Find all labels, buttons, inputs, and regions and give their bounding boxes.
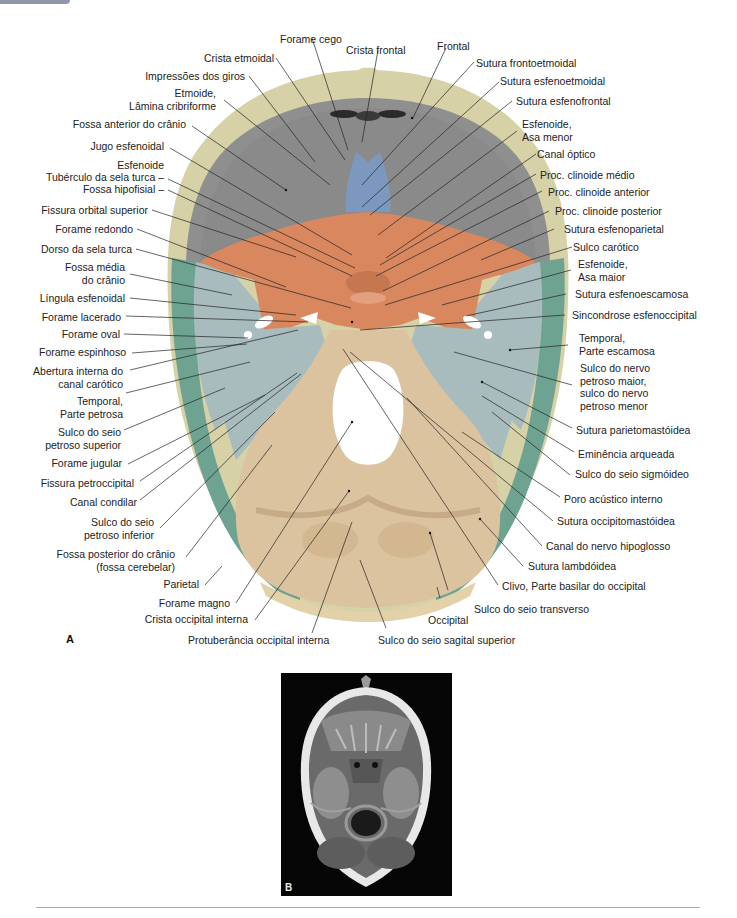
label-dorso-sela: Dorso da sela turca [20,243,132,256]
label-sutura-esfenoparietal: Sutura esfenoparietal [564,223,664,236]
label-sulco-transverso: Sulco do seio transverso [474,603,589,616]
label-fossa-hipofisial: Fossa hipofisial – [60,183,164,196]
label-crista-etmoidal: Crista etmoidal [198,52,274,65]
label-sulco-nervo-petroso: Sulco do nervo petroso maior, sulco do n… [580,362,650,412]
label-eminencia-arqueada: Eminência arqueada [578,448,674,461]
label-sutura-lambdoidea: Sutura lambdóidea [528,560,616,573]
figure-caption-cropped [36,912,700,918]
label-impressoes-dos-giros: Impressões dos giros [100,70,245,83]
mri-axial-skull [281,673,452,896]
label-sutura-esfenoescamosa: Sutura esfenoescamosa [575,288,688,301]
label-jugo-esfenoidal: Jugo esfenoidal [60,140,164,153]
label-clivo: Clivo, Parte basilar do occipital [502,580,646,593]
label-protuberancia-occipital: Protuberância occipital interna [188,634,329,647]
label-sincondrose-esfenoccipital: Sincondrose esfenoccipital [572,309,697,322]
label-clinoide-posterior: Proc. clinoide posterior [555,205,662,218]
label-forame-jugular: Forame jugular [30,457,122,470]
label-canal-condilar: Canal condilar [40,496,137,509]
label-forame-magno: Forame magno [130,597,230,610]
label-esfenoide-asa-menor: Esfenoide, Asa menor [522,118,573,143]
label-fissura-orbital-superior: Fissura orbital superior [20,204,148,217]
caption-divider-line [36,907,700,908]
label-sulco-sigmoideo: Sulco do seio sigmóideo [575,468,689,481]
label-sutura-occipitomastoidea: Sutura occipitomastóidea [557,515,675,528]
label-temporal-petrosa: Temporal, Parte petrosa [20,395,123,420]
label-forame-oval: Forame oval [40,328,120,341]
label-forame-redondo: Forame redondo [40,223,133,236]
label-crista-frontal: Crista frontal [346,44,406,57]
label-sutura-parietomastoidea: Sutura parietomastóidea [576,424,690,437]
label-abertura-canal-carotico: Abertura interna do canal carótico [20,365,123,390]
figure-b-mri-image: B [281,673,452,896]
label-frontal: Frontal [437,40,470,53]
label-clinoide-medio: Proc. clinoide médio [540,169,635,182]
label-forame-cego: Forame cego [280,33,342,46]
label-poro-acustico: Poro acústico interno [564,493,663,506]
label-etmoide-lamina: Etmoide, Lâmina cribriforme [100,87,216,112]
label-fossa-media: Fossa média do crânio [40,261,125,286]
label-fissura-petroccipital: Fissura petroccipital [20,477,134,490]
label-esfenoide-head: Esfenoide [60,159,164,172]
label-sulco-petroso-inferior: Sulco do seio petroso inferior [40,516,154,541]
label-temporal-escamosa: Temporal, Parte escamosa [579,332,655,357]
figure-a-skull-base: Forame cego Crista etmoidal Crista front… [0,0,737,640]
label-sulco-sagital-superior: Sulco do seio sagital superior [378,634,515,647]
label-sulco-carotico: Sulco carótico [573,241,639,254]
label-sutura-esfenoetmoidal: Sutura esfenoetmoidal [500,75,605,88]
label-crista-occipital-interna: Crista occipital interna [130,613,248,626]
label-occipital: Occipital [428,614,468,627]
label-sulco-petroso-superior: Sulco do seio petroso superior [20,426,121,451]
label-canal-hipoglosso: Canal do nervo hipoglosso [546,540,670,553]
label-fossa-anterior: Fossa anterior do crânio [40,118,186,131]
label-esfenoide-asa-maior: Esfenoide, Asa maior [578,258,628,283]
label-tuberculo-sela: Tubérculo da sela turca – [30,171,164,184]
label-sutura-frontoetmoidal: Sutura frontoetmoidal [476,57,576,70]
label-forame-espinhoso: Forame espinhoso [20,346,126,359]
label-sutura-esfenofrontal: Sutura esfenofrontal [516,95,611,108]
panel-letter-a: A [66,633,74,645]
label-forame-lacerado: Forame lacerado [30,311,121,324]
label-canal-optico: Canal óptico [537,148,595,161]
label-fossa-posterior: Fossa posterior do crânio (fossa cerebel… [40,548,175,573]
label-lingula-esfenoidal: Língula esfenoidal [20,292,125,305]
panel-letter-b: B [285,882,292,893]
label-clinoide-anterior: Proc. clinoide anterior [548,186,650,199]
label-parietal: Parietal [130,578,199,591]
